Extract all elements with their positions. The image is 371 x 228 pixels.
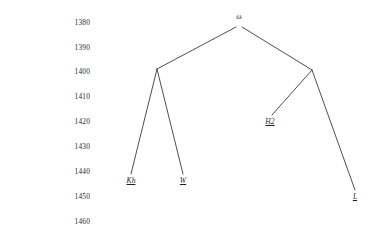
tree-edge (131, 69, 157, 174)
tree-edge (272, 70, 312, 115)
node-label-h2: H2 (265, 117, 274, 126)
stemma-figure: 1380 1390 1400 1410 1420 1430 1440 1450 … (0, 0, 371, 228)
tree-edge (242, 27, 312, 70)
tree-edges (0, 0, 371, 228)
node-label-root: ω (236, 12, 241, 21)
tree-edge (312, 70, 355, 190)
node-label-l: L (353, 192, 357, 201)
tree-edge (157, 69, 183, 174)
node-label-w: W (180, 176, 186, 185)
node-label-kh: Kh (127, 176, 136, 185)
tree-edge (157, 27, 236, 69)
